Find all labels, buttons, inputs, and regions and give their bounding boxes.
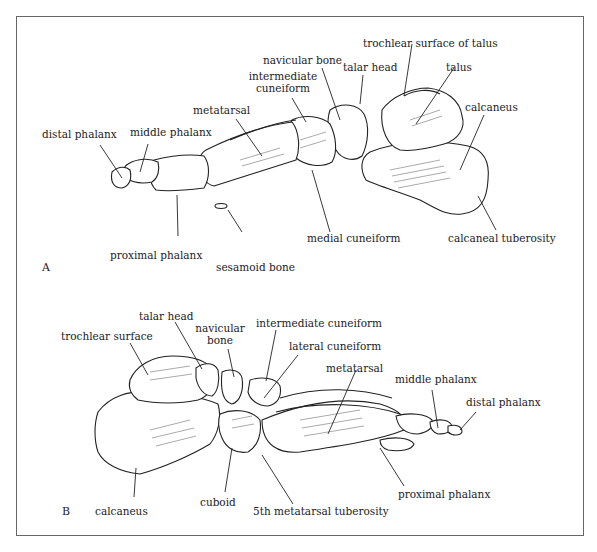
label-a-intermediate-cuneiform-line1: intermediate <box>246 70 320 82</box>
label-b-navicular-bone-line1: navicular <box>192 322 248 334</box>
panel-letter-b: B <box>62 505 70 518</box>
label-b-proximal-phalanx: proximal phalanx <box>398 488 490 500</box>
label-a-calcaneal-tuberosity: calcaneal tuberosity <box>448 232 556 244</box>
label-a-intermediate-cuneiform: intermediate cuneiform <box>246 70 320 94</box>
label-a-talus: talus <box>446 61 472 73</box>
label-b-talar-head: talar head <box>139 310 193 322</box>
label-a-medial-cuneiform: medial cuneiform <box>307 232 400 244</box>
label-b-trochlear-surface: trochlear surface <box>61 330 153 342</box>
label-b-distal-phalanx: distal phalanx <box>466 396 541 408</box>
label-a-navicular-bone: navicular bone <box>263 54 342 66</box>
panel-a-foot-drawing <box>111 88 488 214</box>
label-a-middle-phalanx: middle phalanx <box>130 126 212 138</box>
label-b-metatarsal: metatarsal <box>326 362 383 374</box>
label-a-proximal-phalanx: proximal phalanx <box>110 249 202 261</box>
label-b-navicular-bone: navicular bone <box>192 322 248 346</box>
label-a-intermediate-cuneiform-line2: cuneiform <box>246 82 320 94</box>
label-a-trochlear-surface-of-talus: trochlear surface of talus <box>363 37 498 49</box>
label-a-distal-phalanx: distal phalanx <box>42 128 117 140</box>
label-a-sesamoid-bone: sesamoid bone <box>216 261 295 273</box>
label-a-talar-head: talar head <box>343 61 397 73</box>
label-b-navicular-bone-line2: bone <box>192 334 248 346</box>
label-a-metatarsal: metatarsal <box>193 104 250 116</box>
label-b-middle-phalanx: middle phalanx <box>395 373 477 385</box>
label-b-cuboid: cuboid <box>200 496 236 508</box>
label-b-calcaneus: calcaneus <box>95 505 148 517</box>
panel-letter-a: A <box>42 261 50 274</box>
label-b-intermediate-cuneiform: intermediate cuneiform <box>256 317 382 329</box>
label-b-5th-metatarsal-tuberosity: 5th metatarsal tuberosity <box>253 505 389 517</box>
label-b-lateral-cuneiform: lateral cuneiform <box>289 340 381 352</box>
label-a-calcaneus: calcaneus <box>465 101 518 113</box>
